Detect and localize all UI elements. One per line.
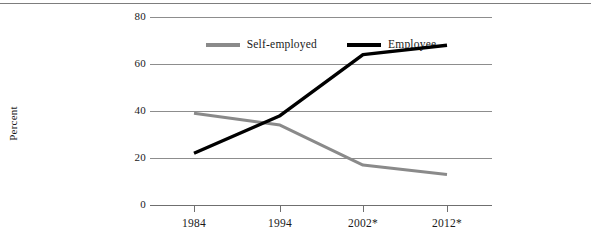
plot-area: 020406080 Percent 198419942002*2012* Sel…: [0, 0, 591, 239]
series-lines: [0, 0, 591, 239]
series-line-self-employed: [194, 113, 447, 174]
series-line-employee: [194, 45, 447, 153]
chart-page: 020406080 Percent 198419942002*2012* Sel…: [0, 0, 591, 239]
